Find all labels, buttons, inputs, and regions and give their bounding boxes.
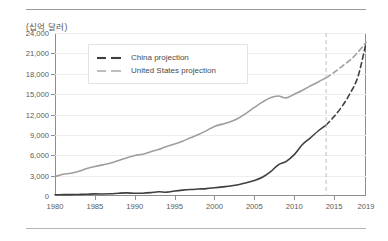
y-axis-tick-label: 15,000 bbox=[26, 90, 49, 99]
x-axis-tick-label: 2005 bbox=[246, 202, 263, 211]
y-axis-tick-label: 12,000 bbox=[26, 110, 49, 119]
x-axis-tick-label: 2019 bbox=[358, 202, 375, 211]
x-axis-tick-mark bbox=[214, 196, 215, 200]
x-axis-tick-label: 1990 bbox=[126, 202, 143, 211]
legend-swatch-china bbox=[96, 53, 124, 63]
x-axis-tick-mark bbox=[135, 196, 136, 200]
x-axis-tick-mark bbox=[95, 196, 96, 200]
y-axis-tick-label: 21,000 bbox=[26, 49, 49, 58]
x-axis-tick-label: 2015 bbox=[326, 202, 343, 211]
y-axis-tick-label: 9,000 bbox=[30, 130, 49, 139]
top-divider bbox=[26, 9, 366, 10]
legend-swatch-united-states bbox=[96, 66, 124, 76]
legend: China projection United States projectio… bbox=[88, 44, 248, 84]
x-axis-tick-label: 2000 bbox=[206, 202, 223, 211]
legend-item-united-states: United States projection bbox=[96, 64, 239, 77]
bottom-divider bbox=[26, 228, 366, 229]
line-china-projection-actual bbox=[55, 125, 326, 195]
x-axis-tick-mark bbox=[334, 196, 335, 200]
x-axis-tick-label: 1980 bbox=[47, 202, 64, 211]
x-axis-tick-label: 1985 bbox=[86, 202, 103, 211]
y-axis-tick-label: 24,000 bbox=[26, 29, 49, 38]
legend-item-china: China projection bbox=[96, 51, 239, 64]
x-axis-tick-label: 1995 bbox=[166, 202, 183, 211]
y-axis-tick-label: 6,000 bbox=[30, 151, 49, 160]
y-axis-tick-label: 0 bbox=[45, 192, 49, 201]
x-axis-tick-label: 2010 bbox=[286, 202, 303, 211]
plot-area: 03,0006,0009,00012,00015,00018,00021,000… bbox=[55, 33, 366, 196]
y-axis-tick-label: 18,000 bbox=[26, 69, 49, 78]
y-axis-tick-label: 3,000 bbox=[30, 171, 49, 180]
x-axis-tick-mark bbox=[294, 196, 295, 200]
legend-label-united-states: United States projection bbox=[131, 66, 216, 75]
x-axis-tick-mark bbox=[175, 196, 176, 200]
x-axis-tick-mark bbox=[254, 196, 255, 200]
line-united-states-projection-projection bbox=[326, 43, 366, 78]
chart-figure: (십억 달러) 03,0006,0009,00012,00015,00018,0… bbox=[0, 0, 388, 241]
legend-label-china: China projection bbox=[131, 53, 189, 62]
line-china-projection-projection bbox=[326, 43, 366, 125]
